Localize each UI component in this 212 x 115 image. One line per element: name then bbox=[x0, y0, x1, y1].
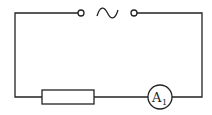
ammeter-icon: A 1 bbox=[148, 85, 172, 109]
ac-source-icon bbox=[97, 8, 118, 18]
terminal-left-icon bbox=[78, 10, 84, 16]
wire-left bbox=[15, 13, 78, 97]
wire-right bbox=[137, 13, 202, 97]
ammeter-subscript: 1 bbox=[162, 98, 167, 107]
terminal-right-icon bbox=[131, 10, 137, 16]
ammeter-label: A bbox=[151, 90, 162, 105]
circuit-diagram: A 1 bbox=[0, 0, 212, 115]
resistor-icon bbox=[42, 90, 94, 104]
